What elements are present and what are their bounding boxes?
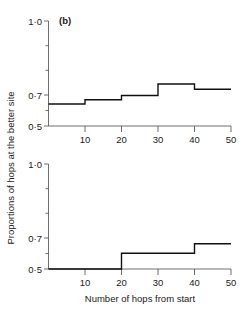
x-axis-title: Number of hops from start xyxy=(85,293,196,304)
upper-ytick-label-0-7: 0·7 xyxy=(28,90,42,101)
upper-ytick-label-1-0: 1·0 xyxy=(28,16,42,27)
upper-xtick-label-50: 50 xyxy=(226,134,237,145)
lower-xtick-label-20: 20 xyxy=(116,277,127,288)
upper-xtick-label-40: 40 xyxy=(189,134,200,145)
y-axis-title: Proportions of hops at the better site xyxy=(5,91,16,244)
lower-xtick-label-40: 40 xyxy=(189,277,200,288)
lower-ytick-label-0-7: 0·7 xyxy=(28,233,42,244)
upper-y-minor-ticks xyxy=(46,46,49,111)
lower-panel: 1·0 0·7 0·5 10 20 30 40 50 xyxy=(28,159,236,289)
lower-ytick-label-0-5: 0·5 xyxy=(28,264,42,275)
upper-xtick-label-10: 10 xyxy=(80,134,91,145)
chart-svg: (b) 1·0 0·7 0·5 xyxy=(0,0,245,310)
lower-y-minor-ticks xyxy=(46,189,49,254)
lower-xtick-label-10: 10 xyxy=(80,277,91,288)
lower-xtick-label-30: 30 xyxy=(153,277,164,288)
lower-xtick-label-50: 50 xyxy=(226,277,237,288)
figure-panel-b: (b) 1·0 0·7 0·5 xyxy=(0,0,245,310)
upper-ytick-label-0-5: 0·5 xyxy=(28,121,42,132)
upper-xtick-label-30: 30 xyxy=(153,134,164,145)
panel-label-b: (b) xyxy=(59,15,71,26)
lower-x-ticks xyxy=(85,269,231,275)
upper-xtick-label-20: 20 xyxy=(116,134,127,145)
lower-ytick-label-1-0: 1·0 xyxy=(28,159,42,170)
lower-step-line xyxy=(49,244,232,269)
upper-panel: (b) 1·0 0·7 0·5 xyxy=(28,15,236,145)
upper-step-line xyxy=(49,84,232,104)
upper-x-ticks xyxy=(85,126,231,132)
